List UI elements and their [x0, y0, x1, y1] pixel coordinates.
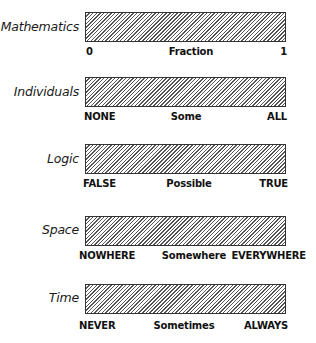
tick-middle-individuals: Some [171, 111, 201, 122]
tick-middle-space: Somewhere [162, 250, 226, 261]
scale-name-space: Space [42, 222, 79, 237]
tick-left-mathematics: 0 [86, 46, 93, 57]
hatched-bar-mathematics [85, 12, 286, 42]
scale-name-time: Time [49, 290, 79, 305]
hatched-bar-logic [85, 144, 286, 174]
hatched-bar-individuals [85, 77, 286, 107]
tick-middle-time: Sometimes [154, 320, 215, 331]
tick-right-logic: TRUE [259, 178, 288, 189]
scale-name-logic: Logic [47, 151, 79, 166]
hatched-bar-space [85, 216, 286, 246]
tick-left-logic: FALSE [83, 178, 116, 189]
scale-name-individuals: Individuals [14, 84, 79, 99]
tick-right-individuals: ALL [267, 111, 287, 122]
tick-middle-logic: Possible [166, 178, 211, 189]
tick-right-time: ALWAYS [244, 320, 288, 331]
tick-left-space: NOWHERE [79, 250, 135, 261]
scale-name-mathematics: Mathematics [1, 19, 79, 34]
tick-right-space: EVERYWHERE [231, 250, 306, 261]
tick-middle-mathematics: Fraction [169, 46, 213, 57]
tick-left-individuals: NONE [84, 111, 115, 122]
hatched-bar-time [85, 284, 286, 314]
tick-right-mathematics: 1 [280, 46, 287, 57]
tick-left-time: NEVER [79, 320, 115, 331]
